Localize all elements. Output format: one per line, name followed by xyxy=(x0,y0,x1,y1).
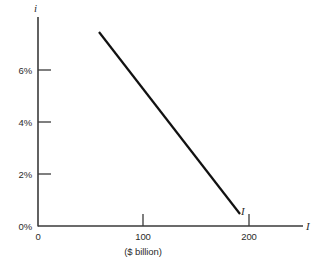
investment-demand-curve xyxy=(99,32,240,214)
x-tick-label-200: 200 xyxy=(235,232,263,242)
x-tick-label-0: 0 xyxy=(28,232,48,242)
investment-demand-chart: i I 6% 4% 2% 0% 0 100 200 I ($ billion) xyxy=(0,0,328,267)
y-axis-title: i xyxy=(34,3,37,14)
x-tick-label-100: 100 xyxy=(129,232,157,242)
curve-label-investment: I xyxy=(241,206,245,217)
y-tick-label-6pct: 6% xyxy=(7,66,32,76)
x-axis-title: I xyxy=(306,221,310,232)
y-tick-label-2pct: 2% xyxy=(7,170,32,180)
chart-plot-area xyxy=(0,0,328,267)
axis-unit-caption: ($ billion) xyxy=(103,247,183,257)
y-tick-label-4pct: 4% xyxy=(7,118,32,128)
y-tick-label-0pct: 0% xyxy=(7,222,32,232)
